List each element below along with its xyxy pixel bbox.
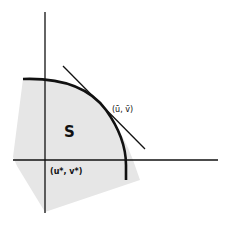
origin-label: (u*, v*): [50, 167, 82, 176]
tangent-point-label: (ū, v̄): [112, 105, 133, 114]
region-label: S: [64, 123, 75, 141]
region-s-fill: [13, 79, 140, 212]
diagram-canvas: S (ū, v̄) (u*, v*): [0, 0, 225, 226]
